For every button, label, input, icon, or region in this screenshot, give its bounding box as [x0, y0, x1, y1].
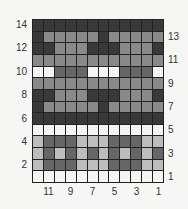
row-label-13: 13	[168, 31, 188, 43]
chart-cell	[109, 102, 119, 113]
chart-cell	[55, 136, 65, 147]
chart-cell	[66, 67, 76, 78]
chart-cell	[66, 43, 76, 54]
chart-cell	[109, 43, 119, 54]
chart-cell	[99, 160, 109, 171]
chart-cell	[131, 160, 141, 171]
chart-cell	[142, 90, 152, 101]
chart-cell	[44, 20, 54, 31]
chart-cell	[55, 43, 65, 54]
chart-cell	[88, 148, 98, 159]
chart-cell	[109, 90, 119, 101]
chart-cell	[33, 55, 43, 66]
chart-cell	[99, 171, 109, 182]
chart-cell	[99, 78, 109, 89]
chart-cell	[131, 136, 141, 147]
chart-cell	[131, 125, 141, 136]
chart-cell	[55, 20, 65, 31]
row-label-9: 9	[168, 78, 188, 90]
chart-cell	[131, 90, 141, 101]
chart-cell	[142, 43, 152, 54]
chart-cell	[120, 32, 130, 43]
chart-cell	[153, 90, 163, 101]
chart-cell	[88, 113, 98, 124]
chart-cell	[88, 67, 98, 78]
chart-cell	[33, 113, 43, 124]
column-label-1: 1	[153, 186, 164, 198]
chart-cell	[66, 125, 76, 136]
chart-cell	[88, 55, 98, 66]
column-label-5: 5	[109, 186, 120, 198]
chart-cell	[77, 125, 87, 136]
chart-cell	[88, 43, 98, 54]
chart-cell	[66, 160, 76, 171]
chart-cell	[55, 148, 65, 159]
chart-cell	[142, 125, 152, 136]
chart-cell	[77, 148, 87, 159]
chart-cell	[109, 67, 119, 78]
chart-cell	[142, 136, 152, 147]
chart-cell	[55, 67, 65, 78]
chart-cell	[109, 78, 119, 89]
column-label-3: 3	[131, 186, 142, 198]
chart-cell	[142, 20, 152, 31]
chart-cell	[55, 160, 65, 171]
chart-cell	[99, 55, 109, 66]
chart-cell	[55, 90, 65, 101]
chart-cell	[44, 32, 54, 43]
chart-cell	[66, 171, 76, 182]
chart-cell	[77, 102, 87, 113]
chart-cell	[33, 136, 43, 147]
chart-cell	[153, 113, 163, 124]
chart-cell	[153, 171, 163, 182]
chart-cell	[99, 148, 109, 159]
row-label-5: 5	[168, 124, 188, 136]
chart-cell	[44, 55, 54, 66]
chart-cell	[109, 32, 119, 43]
chart-cell	[131, 78, 141, 89]
chart-cell	[44, 113, 54, 124]
chart-cell	[109, 136, 119, 147]
chart-cell	[120, 43, 130, 54]
chart-cell	[33, 78, 43, 89]
chart-cell	[99, 125, 109, 136]
chart-cell	[44, 171, 54, 182]
chart-cell	[55, 78, 65, 89]
chart-cell	[153, 78, 163, 89]
chart-cell	[66, 102, 76, 113]
chart-cell	[109, 113, 119, 124]
chart-cell	[77, 43, 87, 54]
chart-cell	[99, 43, 109, 54]
chart-cell	[131, 113, 141, 124]
chart-cell	[99, 67, 109, 78]
chart-cell	[120, 55, 130, 66]
chart-cell	[77, 78, 87, 89]
chart-cell	[120, 90, 130, 101]
chart-cell	[142, 102, 152, 113]
chart-cell	[66, 148, 76, 159]
chart-cell	[55, 125, 65, 136]
chart-cell	[153, 136, 163, 147]
chart-cell	[44, 148, 54, 159]
chart-cell	[99, 136, 109, 147]
chart-cell	[77, 160, 87, 171]
chart-cell	[120, 113, 130, 124]
chart-cell	[142, 55, 152, 66]
chart-cell	[33, 90, 43, 101]
chart-cell	[120, 102, 130, 113]
chart-cell	[44, 43, 54, 54]
chart-cell	[142, 171, 152, 182]
chart-cell	[109, 125, 119, 136]
chart-cell	[33, 43, 43, 54]
chart-cell	[153, 102, 163, 113]
chart-cell	[33, 125, 43, 136]
chart-cell	[131, 32, 141, 43]
chart-cell	[33, 160, 43, 171]
chart-cell	[142, 32, 152, 43]
chart-cell	[77, 55, 87, 66]
chart-cell	[44, 125, 54, 136]
chart-cell	[33, 171, 43, 182]
chart-cell	[66, 78, 76, 89]
row-label-11: 11	[168, 54, 188, 66]
chart-cell	[66, 55, 76, 66]
